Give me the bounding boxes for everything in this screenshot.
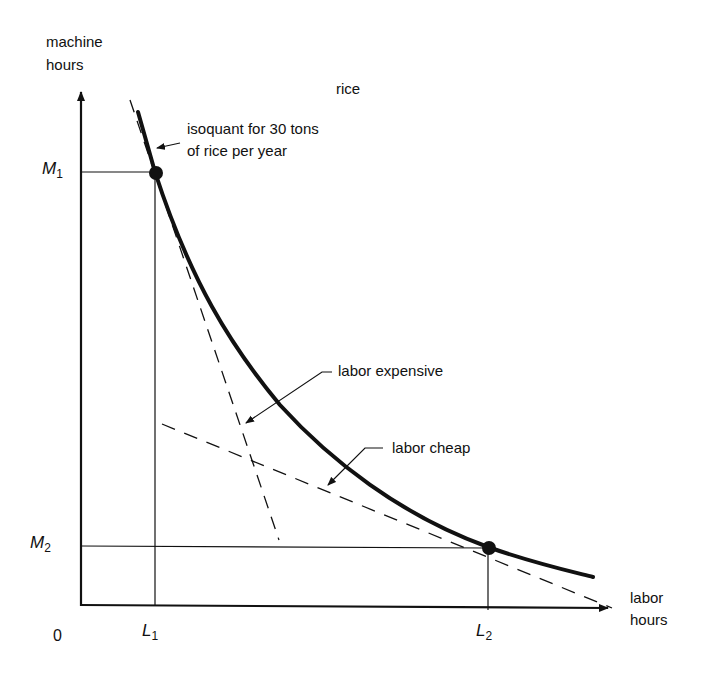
x-axis-label-line1: labor: [630, 589, 663, 607]
m1-tick-label: M1: [42, 160, 63, 183]
labor-cheap-line: [162, 424, 612, 608]
m2-guide: [81, 546, 488, 548]
labor-cheap-pointer: [328, 448, 383, 485]
x-axis: [80, 605, 608, 608]
isoquant-label-line1: isoquant for 30 tons: [187, 120, 319, 138]
origin-label: 0: [53, 627, 62, 645]
y-axis-label-line1: machine: [46, 33, 103, 51]
labor-expensive-label: labor expensive: [338, 362, 443, 380]
y-axis-label-line2: hours: [46, 56, 84, 74]
isoquant-diagram: [0, 0, 715, 678]
isoquant-label-line2: of rice per year: [187, 142, 287, 160]
l1-tick-label: L1: [142, 622, 158, 645]
point-l2-m2: [482, 541, 496, 555]
isoquant-pointer: [157, 143, 180, 148]
diagram-title: rice: [336, 80, 360, 98]
x-axis-label-line2: hours: [630, 611, 668, 629]
l2-tick-label: L2: [476, 622, 492, 645]
m2-tick-label: M2: [30, 534, 51, 557]
labor-cheap-label: labor cheap: [392, 439, 470, 457]
point-l1-m1: [149, 166, 163, 180]
